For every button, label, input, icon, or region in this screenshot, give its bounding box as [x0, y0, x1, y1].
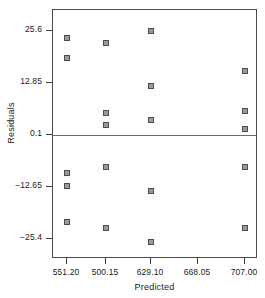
data-point	[103, 110, 109, 116]
data-point	[242, 164, 248, 170]
y-axis-tick-label: 12.85	[20, 77, 42, 86]
data-point	[148, 239, 154, 245]
data-point	[242, 108, 248, 114]
data-point	[64, 219, 70, 225]
x-axis-tick	[105, 258, 106, 264]
data-point	[148, 117, 154, 123]
data-point	[242, 68, 248, 74]
data-point	[64, 170, 70, 176]
data-point	[103, 225, 109, 231]
x-axis-tick	[197, 258, 198, 264]
y-axis-tick-label: −12.65	[15, 181, 42, 190]
x-axis-title: Predicted	[52, 282, 257, 292]
data-point	[103, 122, 109, 128]
data-point	[242, 225, 248, 231]
data-point	[64, 183, 70, 189]
residual-plot-figure: Residuals 25.612.850.1−12.65−25.4 551.20…	[0, 0, 265, 298]
x-axis-tick	[150, 258, 151, 264]
data-point	[148, 83, 154, 89]
plot-area	[52, 9, 257, 258]
data-point	[64, 35, 70, 41]
x-axis-tick	[66, 258, 67, 264]
data-point	[242, 126, 248, 132]
zero-reference-line	[53, 135, 256, 136]
data-point	[148, 28, 154, 34]
y-axis-title: Residuals	[6, 93, 16, 153]
data-point	[64, 55, 70, 61]
data-point	[103, 40, 109, 46]
data-point	[103, 164, 109, 170]
x-axis-tick	[244, 258, 245, 264]
y-axis-tick-label: −25.4	[20, 233, 42, 242]
x-axis-tick-label: 707.00	[214, 267, 265, 277]
y-axis-tick-label: 25.6	[25, 25, 42, 34]
data-point	[148, 188, 154, 194]
y-axis-tick-label: 0.1	[30, 129, 42, 138]
